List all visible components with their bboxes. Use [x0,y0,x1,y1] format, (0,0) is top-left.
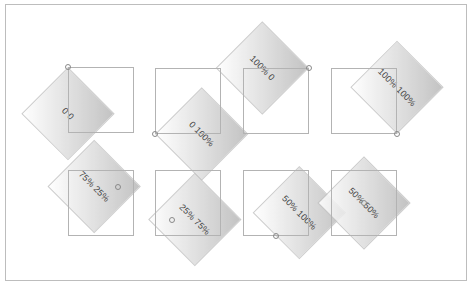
transform-origin-example-3: 100% 0 [243,68,309,134]
origin-label: 100% 0 [248,53,277,82]
origin-point-icon [115,184,121,190]
origin-point-icon [169,217,175,223]
transform-origin-example-4: 100% 100% [331,68,397,134]
origin-label: 0 100% [187,119,216,148]
origin-label: 75% 25% [77,169,112,204]
transform-origin-example-1: 0 0 [68,67,134,133]
transform-origin-example-8: 50% 50% [331,170,397,236]
origin-point-icon [306,65,312,71]
origin-label: 0 0 [60,106,76,122]
origin-point-icon [152,131,158,137]
origin-point-icon [65,64,71,70]
origin-point-icon [361,200,367,206]
transform-origin-example-7: 50% 100% [243,170,309,236]
origin-point-icon [273,233,279,239]
origin-label: 50% 100% [280,193,318,231]
transform-origin-example-6: 25% 75% [155,170,221,236]
transform-origin-example-2: 0 100% [155,68,221,134]
transform-origin-example-5: 75% 25% [68,170,134,236]
origin-label: 25% 75% [177,202,212,237]
origin-label: 100% 100% [376,66,418,108]
origin-point-icon [394,131,400,137]
